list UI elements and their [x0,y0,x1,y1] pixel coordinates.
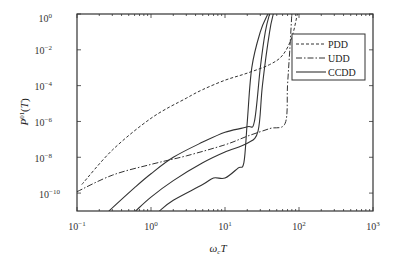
series-udd [77,14,292,192]
y-tick-labels: 100 10−2 10−4 10−6 10−8 10−10 [35,12,61,200]
legend-label-udd: UDD [328,53,350,64]
x-tick-label: 10−1 [68,220,86,232]
x-axis-label: ωcT [209,242,227,256]
y-tick-label: 10−8 [35,152,53,164]
y-tick-label: 10−6 [35,116,53,128]
y-tick-label: 10−10 [39,188,60,200]
y-tick-label: 100 [39,12,53,24]
y-tick-label: 10−2 [35,44,53,56]
series-ccdd-1 [109,14,270,211]
legend-label-ccdd: CCDD [328,67,356,78]
y-axis-label: P01(T) [18,98,31,127]
legend-label-pdd: PDD [328,39,348,50]
x-tick-label: 102 [292,220,306,232]
chart: 10−1 100 101 102 103 100 10−2 10−4 10−6 … [0,0,397,266]
x-tick-labels: 10−1 100 101 102 103 [68,220,380,232]
y-tick-label: 10−4 [35,80,53,92]
series-ccdd-3 [159,14,268,211]
series-group [77,14,297,211]
x-tick-label: 101 [218,220,232,232]
series-ccdd-2 [136,14,274,211]
x-tick-label: 100 [144,220,158,232]
x-tick-label: 103 [366,220,380,232]
series-pdd [82,14,298,185]
legend: PDD UDD CCDD [292,34,365,80]
